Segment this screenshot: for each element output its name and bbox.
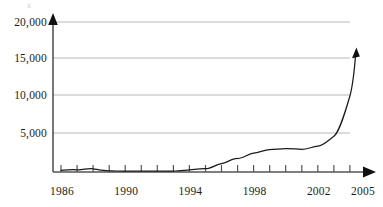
y-tick-label-10000: 10,000 — [14, 89, 47, 102]
x-axis — [53, 167, 376, 178]
chart-canvas: g — [0, 0, 383, 207]
gridlines — [53, 22, 350, 133]
y-axis — [48, 13, 58, 172]
x-axis-arrowhead-icon — [363, 167, 376, 178]
y-axis-tick-labels: 20,000 15,000 10,000 5,000 — [14, 16, 47, 140]
x-tick-label-2005: 2005 — [351, 185, 375, 197]
data-series-value — [61, 48, 360, 172]
y-axis-arrowhead-icon — [48, 13, 58, 25]
x-tick-label-1990: 1990 — [114, 185, 138, 197]
x-tick-label-1986: 1986 — [50, 185, 74, 197]
series-line-value — [61, 56, 356, 171]
line-chart: g — [0, 0, 383, 207]
x-axis-tick-labels: 1986 1990 1994 1998 2002 2005 — [50, 185, 375, 197]
x-tick-label-1998: 1998 — [243, 185, 267, 197]
x-tick-label-1994: 1994 — [178, 185, 202, 197]
y-tick-label-20000: 20,000 — [14, 16, 47, 29]
y-tick-label-5000: 5,000 — [20, 127, 47, 140]
x-tick-label-2002: 2002 — [307, 185, 331, 197]
series-end-arrowhead-icon — [352, 48, 360, 59]
top-fragment-text: g — [27, 1, 31, 9]
y-tick-label-15000: 15,000 — [14, 52, 47, 65]
